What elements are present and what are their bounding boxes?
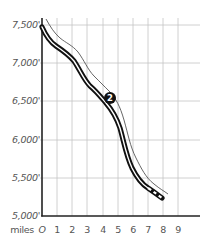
waypoint-marker-2: 2 [104, 92, 116, 104]
elevation-chart: 2 7,500' 7,000' 6,500' 6,000' 5,500' 5,0… [0, 0, 210, 250]
x-tick-2: 2 [69, 224, 75, 235]
y-tick-6500: 6,500' [12, 95, 40, 106]
trail-line-dashed-end [148, 188, 162, 198]
marker-label: 2 [107, 93, 113, 103]
y-tick-labels: 7,500' 7,000' 6,500' 6,000' 5,500' 5,000… [12, 19, 40, 221]
x-tick-9: 9 [175, 224, 181, 235]
y-tick-7000: 7,000' [12, 57, 40, 68]
x-tick-1: 1 [54, 224, 60, 235]
x-tick-5: 5 [115, 224, 121, 235]
y-tick-6000: 6,000' [12, 134, 40, 145]
y-tick-7500: 7,500' [12, 19, 40, 30]
x-tick-labels: miles O 1 2 3 4 5 6 7 8 9 [10, 224, 181, 235]
x-tick-6: 6 [130, 224, 136, 235]
x-tick-8: 8 [160, 224, 166, 235]
y-tick-5500: 5,500' [12, 172, 40, 183]
x-tick-0: O [38, 224, 46, 235]
horizontal-gridlines [40, 25, 200, 178]
x-tick-4: 4 [100, 224, 106, 235]
x-tick-3: 3 [84, 224, 90, 235]
x-tick-7: 7 [145, 224, 151, 235]
y-tick-5000: 5,000' [12, 210, 40, 221]
x-axis-title: miles [10, 224, 34, 235]
